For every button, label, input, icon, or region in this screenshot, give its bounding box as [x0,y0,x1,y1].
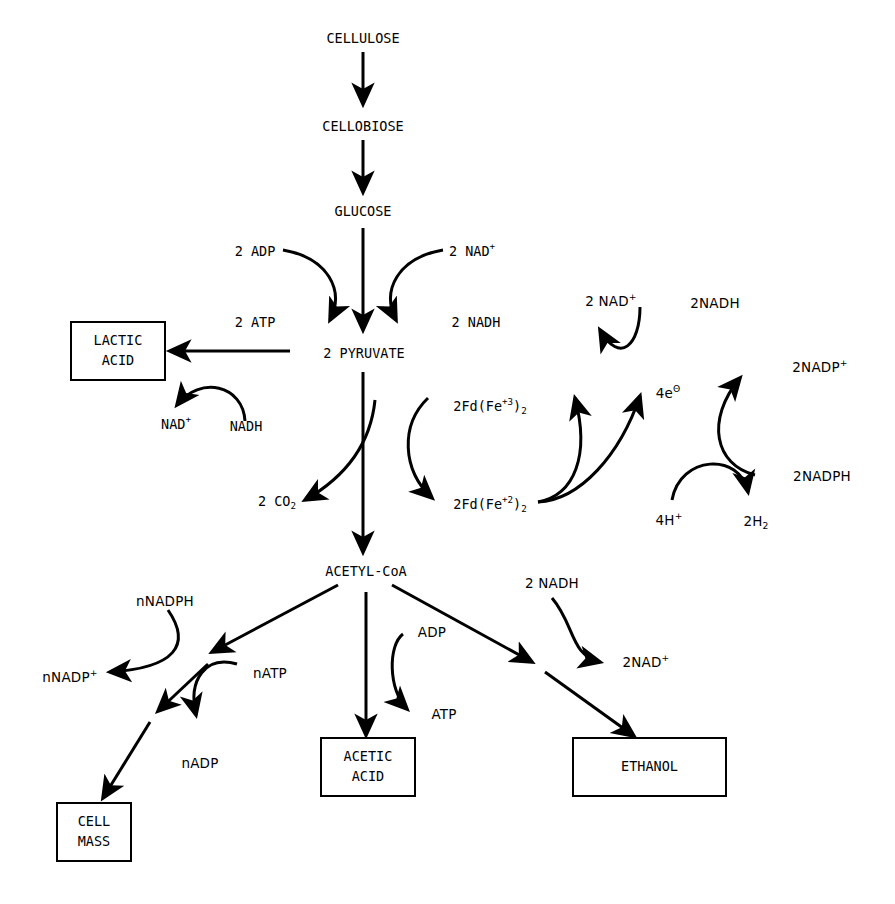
lactic-acid-line1: LACTIC [94,332,143,348]
label-ferredoxin-fe3: 2Fd(Fe+3)2 [453,398,527,415]
label-protons: 4H+ [655,512,682,529]
arrow-acetylcoa-to-ethanol-2 [545,672,634,736]
arrow-acetylcoa-to-cellmass-2 [158,664,208,711]
curve-nad-to-nadh [391,250,443,320]
superscript-plus2: +2 [502,494,513,505]
subscript-2: 2 [521,405,527,416]
superscript-plus: + [629,291,637,302]
n-nadp-text: nNADP [42,669,89,685]
fd-fe3-paren: ) [513,398,521,414]
pathway-arrows-layer [0,0,895,904]
protons-text: 4H [655,512,674,528]
nadp-text: 2NADP [792,359,839,375]
node-pyruvate: 2 PYRUVATE [323,345,404,362]
cell-mass-line1: CELL [78,813,111,829]
superscript-plus: + [185,414,191,425]
label-n-nadp-plus: nNADP+ [42,669,97,686]
label-nad-plus-2-text: 2 NAD [449,243,490,259]
node-cellobiose: CELLOBIOSE [322,118,403,135]
node-acetyl-coa: ACETYL-CoA [325,563,406,580]
cell-mass-label: CELLMASS [78,812,111,851]
subscript-2: 2 [763,520,769,531]
subscript-2: 2 [521,503,527,514]
label-nadp-plus: 2NADP+ [792,359,847,376]
superscript-plus: + [90,667,98,678]
superscript-plus3: +3 [502,396,513,407]
label-nadh-lactate: NADH [230,418,263,435]
label-nad-plus-lactate: NAD+ [161,416,191,433]
label-adp-2: 2 ADP [235,243,276,260]
arrow-acetylcoa-to-ethanol-1 [392,585,532,662]
product-box-cell-mass: CELLMASS [56,802,132,862]
label-nad-plus-top: 2 NAD+ [585,293,637,310]
label-ferredoxin-fe2: 2Fd(Fe+2)2 [453,496,527,513]
node-glucose: GLUCOSE [335,203,392,220]
superscript-theta: Θ [673,383,680,394]
curve-nadph-to-nadp [719,378,755,475]
label-hydrogen: 2H2 [743,513,768,530]
label-nad-plus-2: 2 NAD+ [449,243,495,260]
label-nad-lactate-text: NAD [161,416,185,432]
curve-fd-to-electrons-right [538,396,640,502]
label-n-nadph: nNADPH [136,593,194,610]
acetic-acid-line1: ACETIC [344,748,393,764]
superscript-plus: + [840,357,848,368]
lactic-acid-label: LACTICACID [94,331,143,370]
electrons-text: 4e [656,385,673,401]
product-box-acetic-acid: ACETICACID [320,737,416,797]
label-n-atp: nATP [253,665,287,682]
nad-ethanol-text: 2NAD [622,654,661,670]
lactic-acid-line2: ACID [102,352,135,368]
label-co2-text: 2 CO [258,493,291,509]
arrow-acetylcoa-to-cellmass-1 [212,585,338,652]
label-nadph: 2NADPH [793,468,851,485]
label-nadh-2: 2 NADH [452,314,501,331]
product-box-lactic-acid: LACTICACID [70,321,166,381]
subscript-2: 2 [290,500,296,511]
superscript-plus: + [490,241,496,252]
nad-top-text: 2 NAD [585,293,629,309]
fd-fe2-paren: ) [513,496,521,512]
ethanol-label: ETHANOL [621,757,678,777]
curve-fd-to-electrons-left [538,398,581,502]
label-atp-acetate: ATP [431,706,456,723]
pathway-diagram: CELLULOSE CELLOBIOSE GLUCOSE 2 PYRUVATE … [0,0,895,904]
curve-adp-to-atp [283,250,335,320]
label-atp-2: 2 ATP [235,314,276,331]
superscript-plus: + [662,652,670,663]
acetic-acid-line2: ACID [352,768,385,784]
curve-nadh-to-nad-top [600,307,640,348]
fd-fe2-text: 2Fd(Fe [453,496,502,512]
acetic-acid-label: ACETICACID [344,747,393,786]
label-co2: 2 CO2 [258,493,296,510]
cell-mass-line2: MASS [78,833,111,849]
fd-fe3-text: 2Fd(Fe [453,398,502,414]
curve-adp-to-atp-acetate [392,634,407,709]
label-n-adp: nADP [181,755,218,772]
curve-protons-to-hydrogen [672,464,748,500]
label-nadh-ethanol: 2 NADH [525,575,579,592]
curve-nnadph-to-nnadp [110,610,178,672]
label-nad-plus-ethanol: 2NAD+ [622,654,669,671]
arrow-acetylcoa-to-cellmass-3 [103,722,150,798]
curve-nadh-to-nad-ethanol [552,598,600,662]
label-electrons: 4eΘ [656,385,681,402]
hydrogen-text: 2H [743,513,762,529]
node-cellulose: CELLULOSE [326,30,399,47]
curve-fd-fe3-to-fe2 [408,398,432,498]
label-nadh-top: 2NADH [690,295,739,312]
product-box-ethanol: ETHANOL [572,737,727,797]
label-adp-acetate: ADP [418,624,446,641]
superscript-plus: + [675,510,683,521]
